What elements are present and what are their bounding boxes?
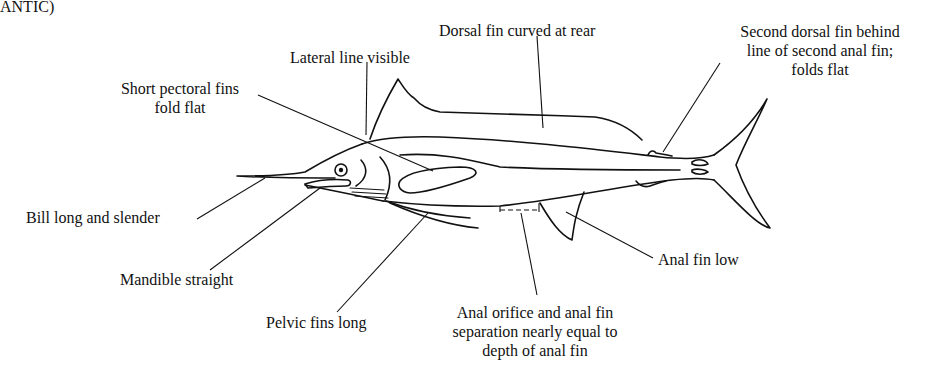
label-anal-orifice: Anal orifice and anal fin separation nea… [430, 303, 640, 360]
label-mandible: Mandible straight [120, 270, 233, 289]
label-bill: Bill long and slender [26, 208, 160, 227]
label-line: Anal orifice and anal fin [430, 303, 640, 322]
body-upper-outline [362, 137, 714, 159]
leader-bill [197, 178, 265, 219]
eye-pupil [339, 168, 343, 172]
label-anal-fin: Anal fin low [658, 250, 739, 269]
leader-anal-fin [566, 212, 653, 258]
label-line: depth of anal fin [430, 341, 640, 360]
leader-lateral-line [366, 62, 367, 135]
label-lateral-line: Lateral line visible [290, 48, 410, 67]
label-pelvic: Pelvic fins long [266, 313, 366, 332]
page-title-fragment: ANTIC) [0, 0, 54, 16]
leader-dorsal [537, 36, 543, 128]
marlin-diagram: ANTIC) Lateral line visible Dorsal fin c… [0, 0, 932, 386]
label-line: Second dorsal fin behind [715, 22, 925, 41]
head-upper [237, 144, 362, 178]
label-line: folds flat [715, 60, 925, 79]
label-line: separation nearly equal to [430, 322, 640, 341]
label-second-dorsal: Second dorsal fin behind line of second … [715, 22, 925, 79]
pelvic-fin-1 [386, 201, 470, 218]
label-line: Short pectoral fins [100, 79, 260, 98]
label-line: line of second anal fin; [715, 41, 925, 60]
dorsal-fin-shape [370, 79, 642, 140]
label-line: fold flat [100, 98, 260, 117]
label-pectoral: Short pectoral fins fold flat [100, 79, 260, 117]
body-lower-outline [383, 179, 714, 207]
tail-fin [714, 99, 770, 228]
leader-pectoral [258, 95, 433, 171]
pelvic-base [350, 188, 388, 198]
leader-anal-orifice [521, 213, 537, 295]
pectoral-fin-shape [399, 167, 476, 193]
leader-pelvic [337, 213, 428, 312]
leader-mandible [210, 188, 320, 270]
gill-cover-1 [356, 160, 366, 186]
label-dorsal-fin: Dorsal fin curved at rear [439, 21, 595, 40]
leader-second-dorsal [663, 63, 720, 152]
caudal-keel [692, 160, 708, 174]
